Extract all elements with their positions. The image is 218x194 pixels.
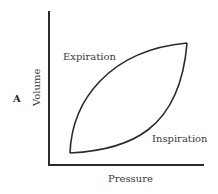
y-axis-label: Volume <box>31 69 42 107</box>
x-axis-label: Pressure <box>108 173 153 184</box>
panel-label: A <box>12 93 21 104</box>
inspiration-label: Inspiration <box>152 133 208 144</box>
expiration-label: Expiration <box>63 51 117 62</box>
pressure-volume-loop-diagram: Expiration Inspiration Pressure Volume A <box>0 0 218 194</box>
